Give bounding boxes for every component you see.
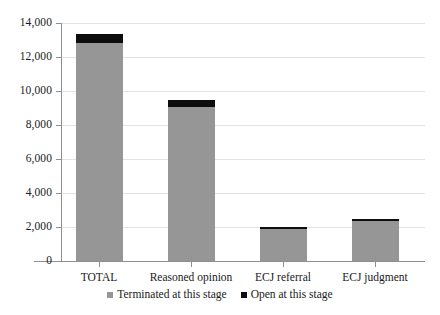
bar-segment-open: [352, 219, 399, 221]
bar-segment-open: [260, 227, 307, 229]
legend-item-terminated[interactable]: Terminated at this stage: [107, 288, 226, 301]
x-axis-tick: [283, 262, 284, 267]
y-axis-label: 10,000: [4, 85, 52, 97]
y-axis-tick: [56, 193, 62, 194]
x-axis-label-ecj-judgment: ECJ judgment: [342, 271, 408, 284]
y-axis-tick: [56, 227, 62, 228]
bar-segment-terminated: [168, 107, 215, 261]
x-axis-tick: [191, 262, 192, 267]
x-axis-tick: [375, 262, 376, 267]
x-axis-label-reasoned-opinion: Reasoned opinion: [150, 271, 233, 284]
legend-label: Terminated at this stage: [117, 288, 226, 301]
legend-item-open[interactable]: Open at this stage: [241, 288, 333, 301]
y-axis-label: 2,000: [4, 221, 52, 233]
x-axis-label-total: TOTAL: [81, 271, 118, 284]
bar-segment-terminated: [260, 229, 307, 261]
x-axis-tick: [99, 262, 100, 267]
x-axis-label-ecj-referral: ECJ referral: [255, 271, 311, 284]
bar-segment-open: [76, 34, 123, 43]
y-axis-tick: [56, 91, 62, 92]
legend-swatch-icon: [241, 292, 247, 298]
y-axis-label: 0: [4, 255, 52, 267]
bar-total[interactable]: [76, 23, 123, 261]
y-axis-label: 12,000: [4, 51, 52, 63]
legend-swatch-icon: [107, 292, 113, 298]
y-axis-tick: [56, 159, 62, 160]
bar-ecj-judgment[interactable]: [352, 23, 399, 261]
y-axis-label: 14,000: [4, 17, 52, 29]
chart-legend: Terminated at this stage Open at this st…: [0, 288, 440, 301]
y-axis-label: 8,000: [4, 119, 52, 131]
plot-area: [62, 23, 425, 261]
y-axis-tick: [56, 125, 62, 126]
y-axis-tick: [56, 23, 62, 24]
x-axis-line: [34, 261, 425, 262]
bar-chart: 14,000 12,000 10,000 8,000 6,000 4,000 2…: [0, 0, 440, 315]
bar-segment-open: [168, 100, 215, 107]
legend-label: Open at this stage: [251, 288, 333, 301]
bar-segment-terminated: [76, 43, 123, 261]
bar-reasoned-opinion[interactable]: [168, 23, 215, 261]
y-axis-label: 4,000: [4, 187, 52, 199]
y-axis-label: 6,000: [4, 153, 52, 165]
bar-ecj-referral[interactable]: [260, 23, 307, 261]
y-axis-tick: [56, 57, 62, 58]
bar-segment-terminated: [352, 221, 399, 261]
y-axis-tick: [56, 261, 62, 262]
